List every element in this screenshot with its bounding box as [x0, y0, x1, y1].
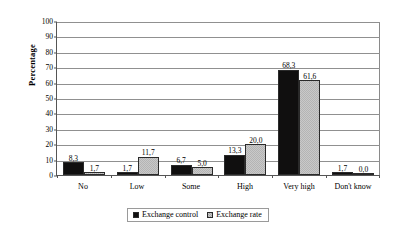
- x-axis-label: No: [56, 180, 110, 194]
- bar[interactable]: 61,6: [299, 80, 320, 175]
- bar[interactable]: 20,0: [245, 144, 266, 175]
- bar-value-label: 1,7: [123, 165, 132, 173]
- bar[interactable]: 8,3: [63, 162, 84, 175]
- bar-value-label: 0,0: [359, 166, 368, 174]
- legend-item[interactable]: Exchange control: [133, 211, 198, 219]
- bar-groups: 8,31,71,711,76,75,013,320,068,361,61,70,…: [57, 22, 380, 175]
- chart-legend: Exchange controlExchange rate: [127, 208, 269, 222]
- bar[interactable]: 1,7: [117, 172, 138, 175]
- bar-value-label: 61,6: [303, 73, 316, 81]
- x-tick-mark: [379, 175, 380, 178]
- bar-value-label: 68,3: [282, 62, 295, 70]
- legend-item[interactable]: Exchange rate: [207, 211, 262, 219]
- bar-group: 6,75,0: [165, 22, 219, 175]
- bar[interactable]: 1,7: [84, 172, 105, 175]
- bar[interactable]: 0,0: [353, 173, 374, 175]
- bar[interactable]: 13,3: [224, 155, 245, 175]
- x-tick-mark: [165, 175, 166, 178]
- x-axis-label: Don't know: [326, 180, 380, 194]
- bar-group: 13,320,0: [218, 22, 272, 175]
- bar[interactable]: 5,0: [192, 167, 213, 175]
- legend-swatch-icon: [207, 212, 213, 218]
- bar[interactable]: 6,7: [171, 165, 192, 175]
- x-tick-mark: [57, 175, 58, 178]
- bar-value-label: 20,0: [249, 137, 262, 145]
- x-tick-mark: [218, 175, 219, 178]
- bar-chart-figure: Percentage 0102030405060708090100 8,31,7…: [0, 0, 398, 237]
- plot-area: 0102030405060708090100 8,31,71,711,76,75…: [56, 22, 380, 176]
- bar-value-label: 5,0: [197, 160, 206, 168]
- bar-value-label: 11,7: [142, 149, 155, 157]
- legend-swatch-icon: [133, 212, 139, 218]
- x-axis-label: Very high: [272, 180, 326, 194]
- x-axis-label: Some: [164, 180, 218, 194]
- x-axis-labels: NoLowSomeHighVery highDon't know: [56, 180, 380, 194]
- bar-value-label: 1,7: [338, 165, 347, 173]
- bar-value-label: 6,7: [176, 157, 185, 165]
- x-axis-label: High: [218, 180, 272, 194]
- y-axis-title: Percentage: [27, 5, 37, 125]
- x-tick-mark: [272, 175, 273, 178]
- bar-value-label: 13,3: [228, 147, 241, 155]
- legend-label: Exchange rate: [216, 211, 262, 219]
- x-tick-mark: [111, 175, 112, 178]
- bar-group: 1,711,7: [111, 22, 165, 175]
- bar-group: 68,361,6: [272, 22, 326, 175]
- bar[interactable]: 1,7: [332, 172, 353, 175]
- bar-value-label: 8,3: [69, 155, 78, 163]
- legend-label: Exchange control: [142, 211, 198, 219]
- bar-group: 1,70,0: [326, 22, 380, 175]
- bar-group: 8,31,7: [57, 22, 111, 175]
- x-axis-label: Low: [110, 180, 164, 194]
- bar-value-label: 1,7: [90, 165, 99, 173]
- x-tick-mark: [326, 175, 327, 178]
- bar[interactable]: 68,3: [278, 70, 299, 175]
- bar[interactable]: 11,7: [138, 157, 159, 175]
